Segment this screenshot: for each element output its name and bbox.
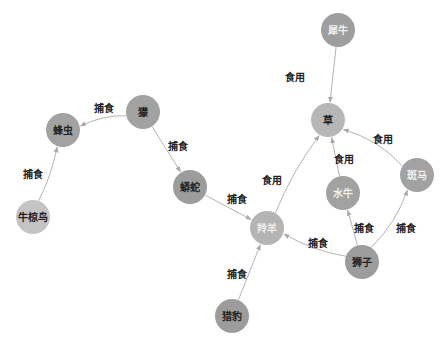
node-label-grass: 草 [323, 114, 333, 126]
edge-label-rhino-grass: 食用 [284, 71, 305, 83]
node-label-oxpecker: 牛椋鸟 [18, 211, 48, 223]
edge-label-python-antelope: 捕食 [227, 193, 248, 205]
edge-label-cheetah-antelope: 捕食 [227, 268, 248, 280]
node-oxpecker[interactable]: 牛椋鸟 [16, 200, 50, 234]
node-buffalo[interactable]: 水牛 [326, 176, 360, 210]
node-python[interactable]: 蟒蛇 [173, 170, 207, 204]
node-label-buffalo: 水牛 [332, 187, 353, 199]
node-label-cheetah: 猎豹 [222, 310, 242, 322]
node-zebra[interactable]: 斑马 [400, 158, 434, 192]
nodes-layer: 犀牛草斑马水牛羚羊狮子猎豹蟒蛇獴蜂虫牛椋鸟 [16, 13, 434, 333]
node-label-antelope: 羚羊 [257, 222, 277, 234]
edge-label-lion-antelope: 捕食 [308, 237, 329, 249]
node-label-python: 蟒蛇 [180, 181, 200, 193]
edge-label-zebra-grass: 食用 [372, 133, 393, 145]
node-lion[interactable]: 狮子 [345, 245, 379, 279]
node-cheetah[interactable]: 猎豹 [215, 299, 249, 333]
node-label-rhino: 犀牛 [327, 24, 348, 36]
node-label-lion: 狮子 [351, 256, 372, 268]
edge-label-oxpecker-beeeater: 捕食 [23, 168, 44, 180]
node-label-mongoose: 獴 [137, 106, 149, 118]
edge-label-lion-zebra: 捕食 [396, 222, 417, 234]
food-web-graph: 食用食用食用食用捕食捕食捕食捕食捕食捕食捕食捕食 犀牛草斑马水牛羚羊狮子猎豹蟒蛇… [0, 0, 448, 350]
edge-label-mongoose-python: 捕食 [168, 140, 189, 152]
node-beeeater[interactable]: 蜂虫 [46, 113, 80, 147]
node-rhino[interactable]: 犀牛 [321, 13, 355, 47]
node-mongoose[interactable]: 獴 [126, 95, 160, 129]
edge-label-lion-buffalo: 捕食 [354, 222, 375, 234]
node-grass[interactable]: 草 [311, 103, 345, 137]
edge-rhino-grass [330, 47, 336, 102]
node-label-zebra: 斑马 [407, 169, 427, 181]
edge-label-mongoose-beeeater: 捕食 [94, 102, 115, 114]
edge-label-buffalo-grass: 食用 [333, 153, 354, 165]
edge-lion-zebra [371, 190, 407, 247]
edge-label-antelope-grass: 食用 [261, 174, 282, 186]
node-antelope[interactable]: 羚羊 [250, 211, 284, 245]
edge-mongoose-beeeater [81, 116, 127, 126]
node-label-beeeater: 蜂虫 [53, 124, 73, 136]
